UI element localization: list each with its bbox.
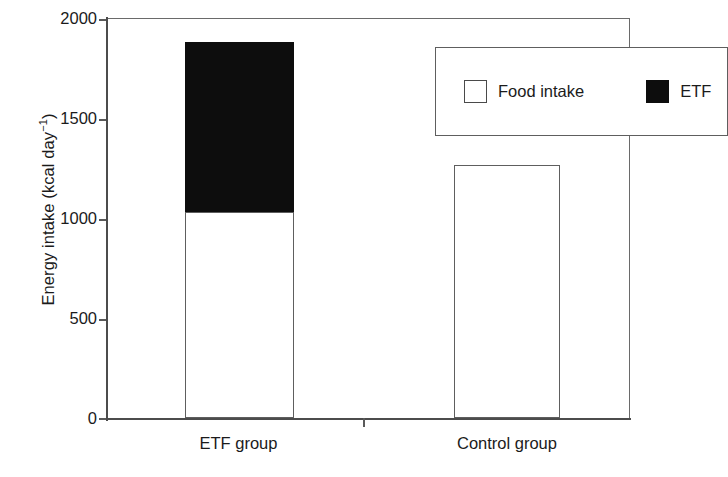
y-tick-2000 [99,19,108,21]
y-tick-1000 [99,219,108,221]
bar-etf-group-food-intake [185,212,294,418]
x-category-label-etf-group: ETF group [166,434,311,453]
y-tick-1500 [99,119,108,121]
y-tick-label-0: 0 [33,409,97,428]
y-tick-label-500: 500 [33,309,97,328]
legend-entry-food-intake: Food intake [464,80,584,103]
legend-entry-etf: ETF [646,80,711,103]
y-tick-label-1000: 1000 [33,209,97,228]
legend-label-etf: ETF [680,82,711,101]
legend-label-food-intake: Food intake [498,82,584,101]
legend-swatch-open-square-icon [464,80,487,103]
bar-etf-group-etf [185,42,294,212]
y-tick-label-2000: 2000 [33,9,97,28]
bar-control-group-food-intake [454,165,560,418]
y-tick-500 [99,319,108,321]
y-tick-label-1500: 1500 [33,109,97,128]
x-category-label-control-group: Control group [432,434,582,453]
y-tick-0 [99,418,108,420]
x-tick-center [363,418,365,427]
scan-bottom-edge [0,471,650,477]
legend-swatch-filled-square-icon [646,80,669,103]
plot-area: Food intake ETF [107,18,630,419]
chart-legend: Food intake ETF [435,47,728,136]
